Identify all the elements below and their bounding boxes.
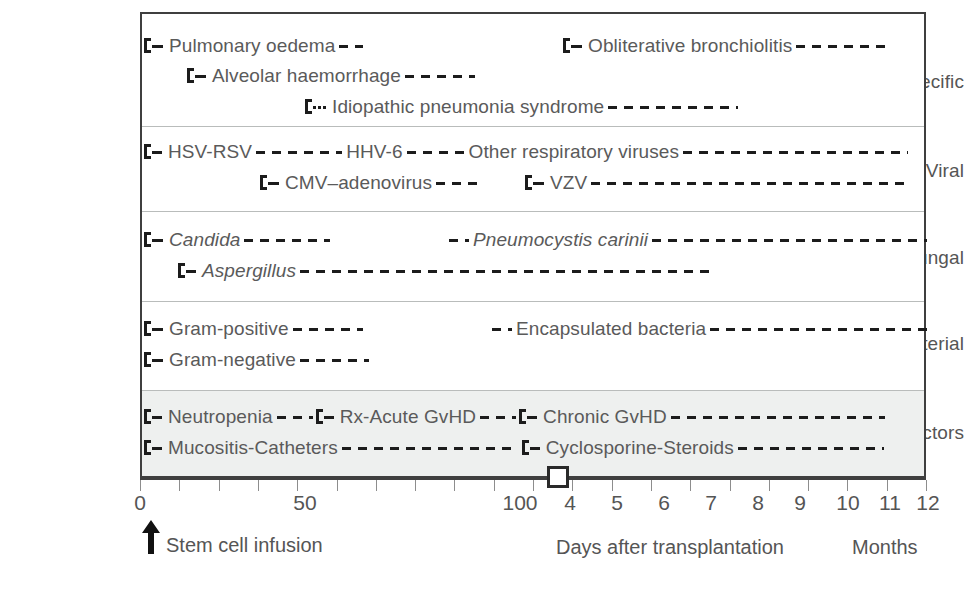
- bar-label: Idiopathic pneumonia syndrome: [328, 97, 608, 116]
- stem-cell-infusion-label: Stem cell infusion: [166, 535, 323, 555]
- x-axis-title-months: Months: [852, 537, 918, 557]
- bar-start-cap-icon: [305, 99, 312, 114]
- axis-tick-label: 6: [658, 492, 670, 513]
- bar-start-cap-icon: [187, 68, 194, 83]
- bar-lead-line: [533, 182, 544, 185]
- bar-lead-dash: [449, 239, 469, 242]
- bar-label: Rx-Acute GvHD: [336, 407, 480, 426]
- bar-label: Aspergillus: [198, 261, 300, 280]
- bar-label: Neutropenia: [164, 407, 277, 426]
- bar-label: Other respiratory viruses: [465, 142, 684, 161]
- axis-tick: [494, 480, 495, 491]
- bar-lead-line: [527, 416, 537, 419]
- bar-start-cap-icon: [178, 263, 185, 278]
- axis-tick: [769, 480, 770, 491]
- bar-label: Alveolar haemorrhage: [208, 66, 405, 85]
- band-separator-4: [142, 390, 924, 391]
- bar-row-idiopathic-pneumonia-syndrome[interactable]: Idiopathic pneumonia syndrome: [305, 93, 738, 119]
- bar-lead-line: [152, 45, 163, 48]
- bar-row-cmv-adenovirus[interactable]: CMV–adenovirus: [260, 169, 483, 195]
- bar-dash-line: [671, 416, 885, 419]
- bar-label: Pneumocystis carinii: [469, 230, 652, 249]
- bar-label: Cyclosporine-Steroids: [542, 438, 738, 457]
- bar-label: Pulmonary oedema: [165, 36, 339, 55]
- bar-row-gram-positive[interactable]: Gram-positive: [144, 315, 363, 341]
- stem-cell-infusion-arrow-icon: [140, 520, 162, 554]
- timeline-chart: Non-specific Viral Fungal Bacterial Risk…: [0, 0, 964, 592]
- axis-tick-label: 5: [611, 492, 623, 513]
- axis-tick: [533, 480, 534, 491]
- bar-start-cap-icon: [522, 440, 529, 455]
- bar-label: Obliterative bronchiolitis: [584, 36, 796, 55]
- bar-lead-line: [324, 416, 334, 419]
- bar-dash-line: [300, 359, 369, 362]
- bar-dash-line: [683, 151, 908, 154]
- bar-dash-line: [300, 270, 710, 273]
- bar-label: HHV-6: [342, 142, 406, 161]
- bar-dash-line: [796, 45, 892, 48]
- bar-lead-line: [530, 447, 540, 450]
- x-axis-title-days: Days after transplantation: [556, 537, 784, 557]
- bar-dash-line: [342, 447, 518, 450]
- axis-tick: [454, 480, 455, 491]
- bar-dash-line: [277, 416, 313, 419]
- axis-tick: [297, 480, 298, 491]
- bar-label: Gram-positive: [165, 319, 293, 338]
- bar-row-encapsulated-bacteria[interactable]: Encapsulated bacteria: [492, 315, 932, 341]
- axis-tick-label: 12: [916, 492, 939, 513]
- bar-lead-line: [152, 328, 163, 331]
- axis-tick-label: 0: [134, 492, 146, 513]
- bar-row-alveolar-haemorrhage[interactable]: Alveolar haemorrhage: [187, 62, 475, 88]
- bar-dash-line: [244, 239, 330, 242]
- bar-row-pneumocystis-carinii[interactable]: Pneumocystis carinii: [449, 226, 927, 252]
- bar-dash-line: [339, 45, 363, 48]
- bar-dash-line: [293, 328, 363, 331]
- bar-dash-line: [608, 106, 738, 109]
- bar-label: Gram-negative: [165, 350, 300, 369]
- axis-tick-label: 8: [752, 492, 764, 513]
- bar-row-gram-negative[interactable]: Gram-negative: [144, 346, 369, 372]
- axis-tick: [140, 480, 141, 491]
- bar-start-cap-icon: [563, 38, 570, 53]
- axis-tick: [651, 480, 652, 491]
- bar-start-cap-icon: [144, 144, 151, 159]
- bar-lead-dash: [492, 328, 512, 331]
- bar-lead-line: [195, 75, 206, 78]
- axis-tick: [612, 480, 613, 491]
- axis-tick: [179, 480, 180, 491]
- bar-row-vzv[interactable]: VZV: [525, 169, 911, 195]
- axis-tick-label: 50: [293, 492, 316, 513]
- bar-lead-line: [152, 416, 162, 419]
- bar-row-viral-line-1[interactable]: HSV-RSV HHV-6 Other respiratory viruses: [144, 138, 908, 164]
- bar-row-risk-line-2[interactable]: Mucositis-Catheters Cyclosporine-Steroid…: [144, 434, 884, 460]
- bar-dash-line: [436, 182, 483, 185]
- band-separator-1: [142, 126, 924, 127]
- axis-tick-label: 9: [794, 492, 806, 513]
- bar-row-pulmonary-oedema[interactable]: Pulmonary oedema: [144, 32, 363, 58]
- bar-label: HSV-RSV: [164, 142, 256, 161]
- bar-label: CMV–adenovirus: [281, 173, 436, 192]
- bar-start-cap-icon: [144, 440, 151, 455]
- bar-label: Chronic GvHD: [539, 407, 671, 426]
- bar-start-cap-icon: [260, 175, 267, 190]
- axis-tick: [415, 480, 416, 491]
- axis-tick: [730, 480, 731, 491]
- axis-tick-label: 7: [705, 492, 717, 513]
- axis-tick: [887, 480, 888, 491]
- bar-dash-line: [480, 416, 516, 419]
- bar-row-obliterative-bronchiolitis[interactable]: Obliterative bronchiolitis: [563, 32, 892, 58]
- bar-row-candida[interactable]: Candida: [144, 226, 330, 252]
- bar-label: Mucositis-Catheters: [164, 438, 342, 457]
- bar-lead-line: [186, 270, 196, 273]
- plot-area: Pulmonary oedema Obliterative bronchioli…: [140, 12, 926, 478]
- bar-start-cap-icon: [144, 321, 151, 336]
- band-separator-3: [142, 301, 924, 302]
- bar-dash-line: [710, 328, 932, 331]
- bar-lead-line: [268, 182, 279, 185]
- bar-row-risk-line-1[interactable]: Neutropenia Rx-Acute GvHD Chronic GvHD: [144, 403, 885, 429]
- axis-tick-label: 11: [879, 492, 901, 513]
- axis-tick: [847, 480, 848, 491]
- band-separator-2: [142, 211, 924, 212]
- bar-row-aspergillus[interactable]: Aspergillus: [178, 257, 710, 283]
- bar-lead-dotted: [313, 106, 326, 109]
